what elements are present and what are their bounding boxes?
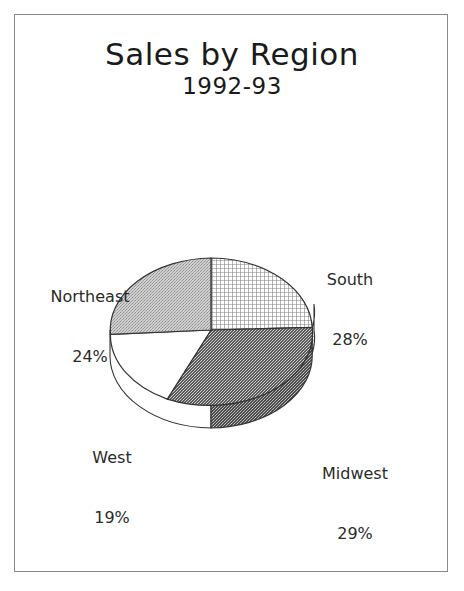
pie-label-south-name: South xyxy=(305,270,395,290)
pie-label-south-value: 28% xyxy=(305,330,395,350)
chart-page: Sales by Region 1992-93 xyxy=(0,0,464,591)
pie-label-midwest: Midwest 29% xyxy=(305,424,405,584)
pie-label-west-value: 19% xyxy=(72,508,152,528)
pie-label-midwest-name: Midwest xyxy=(305,464,405,484)
pie-label-northeast-value: 24% xyxy=(35,347,145,367)
pie-label-northeast: Northeast 24% xyxy=(35,247,145,407)
pie-label-west: West 19% xyxy=(72,408,152,568)
pie-label-south: South 28% xyxy=(305,230,395,390)
pie-label-northeast-name: Northeast xyxy=(35,287,145,307)
pie-label-west-name: West xyxy=(72,448,152,468)
pie-label-midwest-value: 29% xyxy=(305,524,405,544)
pie-slice-south[interactable] xyxy=(211,258,312,330)
